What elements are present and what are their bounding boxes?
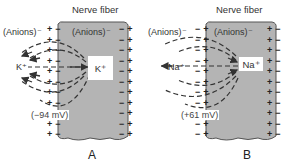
charge-pair: +− <box>267 98 286 109</box>
charge-pair: −+ <box>195 66 215 77</box>
panel-a-outside-ion: K⁺ <box>16 62 27 72</box>
charge-pair: +− <box>47 119 67 130</box>
charge-pair: +− <box>267 56 286 67</box>
charge-pair: −+ <box>195 98 215 109</box>
panel-b-outside-ion: Na⁺ <box>168 62 185 72</box>
charge-pair: −+ <box>119 119 139 130</box>
charge-pair: +− <box>267 77 286 88</box>
panel-b-title: Nerve fiber <box>216 4 262 15</box>
charge-pair: −+ <box>119 129 139 140</box>
charge-pair: +− <box>267 119 286 130</box>
charge-pair: −+ <box>119 45 139 56</box>
charge-pair: −+ <box>119 87 139 98</box>
nerve-fiber-b <box>206 22 276 140</box>
charge-pair: +− <box>267 66 286 77</box>
panel-a-letter: A <box>88 148 96 162</box>
panel-a-inside-ion-box: K⁺ <box>88 56 113 80</box>
charge-pair: −+ <box>195 35 215 46</box>
membrane-charges-b-right: +−+−+−+−+−+−+−+−+−+−+− <box>267 24 286 140</box>
charge-pair: −+ <box>119 98 139 109</box>
charge-pair: +− <box>267 87 286 98</box>
charge-pair: −+ <box>195 87 215 98</box>
charge-pair: +− <box>267 24 286 35</box>
diagram-graphics <box>0 0 286 166</box>
charge-pair: −+ <box>119 108 139 119</box>
panel-a-potential: (−94 mV) <box>30 110 69 120</box>
charge-pair: +− <box>267 108 286 119</box>
panel-a-title: Nerve fiber <box>72 4 118 15</box>
charge-pair: −+ <box>195 45 215 56</box>
charge-pair: −+ <box>195 119 215 130</box>
charge-pair: +− <box>47 77 67 88</box>
charge-pair: −+ <box>195 24 215 35</box>
charge-pair: −+ <box>195 129 215 140</box>
panel-b-potential: (+61 mV) <box>180 110 219 120</box>
charge-pair: +− <box>47 129 67 140</box>
charge-pair: −+ <box>119 35 139 46</box>
charge-pair: −+ <box>119 24 139 35</box>
charge-pair: +− <box>47 66 67 77</box>
charge-pair: −+ <box>119 77 139 88</box>
charge-pair: +− <box>267 35 286 46</box>
charge-pair: −+ <box>119 66 139 77</box>
panel-a-outside-anions: (Anions)⁻ <box>3 27 42 37</box>
charge-pair: +− <box>47 24 67 35</box>
membrane-charges-a-left: +−+−+−+−+−+−+−+−+−+−+− <box>47 24 67 140</box>
membrane-charges-a-right: −+−+−+−+−+−+−+−+−+−+−+ <box>119 24 139 140</box>
charge-pair: −+ <box>195 56 215 67</box>
charge-pair: +− <box>47 87 67 98</box>
charge-pair: +− <box>47 98 67 109</box>
membrane-charges-b-left: −+−+−+−+−+−+−+−+−+−+−+ <box>195 24 215 140</box>
charge-pair: +− <box>267 129 286 140</box>
charge-pair: +− <box>47 45 67 56</box>
charge-pair: +− <box>267 45 286 56</box>
nerve-fiber-a <box>58 22 128 140</box>
panel-b-outside-anions: (Anions)⁻ <box>148 27 187 37</box>
charge-pair: +− <box>47 35 67 46</box>
panel-b-inside-anions: (Anions)⁻ <box>214 27 253 37</box>
panel-b-letter: B <box>243 148 251 162</box>
panel-b-inside-ion-box: Na⁺ <box>239 57 263 71</box>
charge-pair: −+ <box>195 77 215 88</box>
charge-pair: +− <box>47 56 67 67</box>
panel-a-inside-anions: (Anions)⁻ <box>72 27 111 37</box>
charge-pair: −+ <box>119 56 139 67</box>
